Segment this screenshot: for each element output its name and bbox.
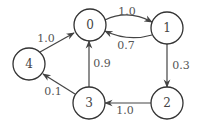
- edge-label-3-to-0: 0.9: [93, 57, 111, 70]
- node-label: 4: [25, 57, 33, 71]
- node-label: 3: [85, 96, 93, 110]
- graph-diagram: 1.0 0.7 0.3 1.0 0.9 0.1 1.0 0 1 2 3: [0, 0, 197, 128]
- node-0: 0: [74, 9, 106, 41]
- edge-label-2-to-3: 1.0: [116, 104, 134, 117]
- node-label: 0: [86, 18, 94, 32]
- node-label: 2: [163, 96, 171, 110]
- edge-label-3-to-4: 0.1: [44, 85, 62, 98]
- edge-label-1-to-2: 0.3: [172, 59, 190, 72]
- node-3: 3: [73, 87, 105, 119]
- edge-label-0-to-1: 1.0: [118, 5, 136, 18]
- edge-label-4-to-0: 1.0: [37, 32, 55, 45]
- node-4: 4: [13, 48, 45, 80]
- edge-label-1-to-0: 0.7: [117, 39, 135, 52]
- node-2: 2: [151, 87, 183, 119]
- node-label: 1: [163, 21, 171, 35]
- edge-1-to-0: [105, 31, 152, 38]
- node-1: 1: [151, 12, 183, 44]
